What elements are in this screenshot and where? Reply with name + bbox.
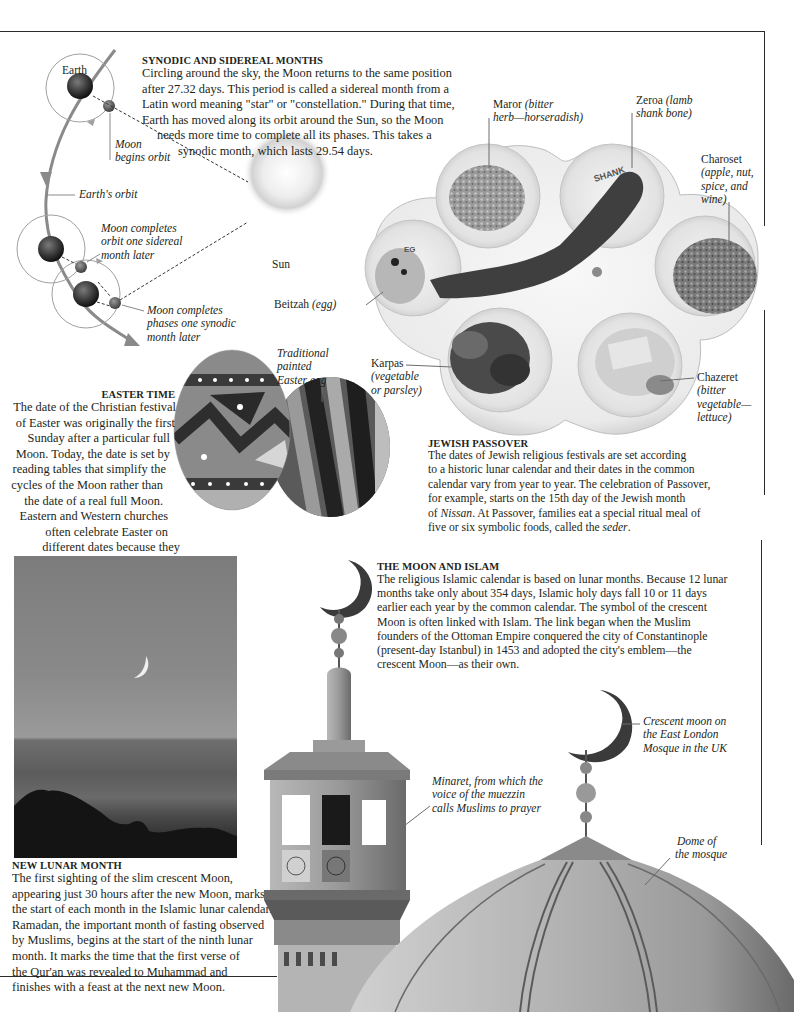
- crescent-label-line: Crescent moon on: [643, 715, 727, 728]
- dome-label-line: the mosque: [675, 848, 727, 861]
- body-line: The religious Islamic calendar is based …: [377, 572, 728, 586]
- body-line: Moon is often linked with Islam. The lin…: [377, 615, 728, 629]
- dome-label: Dome of the mosque: [675, 835, 727, 862]
- islam-heading: THE MOON AND ISLAM: [377, 561, 728, 572]
- islam-body: The religious Islamic calendar is based …: [377, 572, 728, 671]
- body-line: (present-day Istanbul) in 1453 and adopt…: [377, 643, 728, 657]
- body-line: founders of the Ottoman Empire conquered…: [377, 629, 728, 643]
- dome-crescent-icon: [568, 690, 632, 762]
- crescent-label-line: Mosque in the UK: [643, 742, 727, 755]
- minaret-label-line: calls Muslims to prayer: [432, 802, 543, 815]
- body-line: earlier each year by the common calendar…: [377, 600, 728, 614]
- islam-section: THE MOON AND ISLAM The religious Islamic…: [377, 561, 728, 671]
- minaret-label-line: Minaret, from which the: [432, 775, 543, 788]
- minaret-label-line: voice of the muezzin: [432, 788, 543, 801]
- minaret-crescent-icon: [320, 560, 372, 618]
- body-line: crescent Moon—as their own.: [377, 657, 728, 671]
- body-line: months take only about 354 days, Islamic…: [377, 586, 728, 600]
- dome-label-line: Dome of: [675, 835, 727, 848]
- crescent-moon-label: Crescent moon on the East London Mosque …: [643, 715, 727, 755]
- minaret-label: Minaret, from which the voice of the mue…: [432, 775, 543, 815]
- crescent-label-line: the East London: [643, 728, 727, 741]
